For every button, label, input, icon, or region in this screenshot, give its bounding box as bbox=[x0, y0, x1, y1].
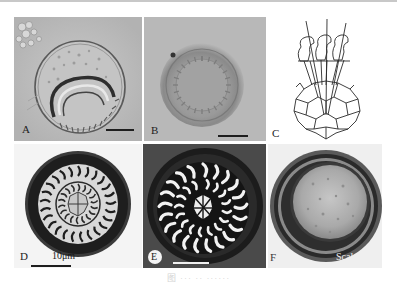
panel-label-a: A bbox=[22, 124, 30, 135]
panel-label-b: B bbox=[151, 125, 158, 136]
panel-label-e: E bbox=[151, 252, 157, 262]
panel-d: D 10μm bbox=[14, 144, 142, 268]
top-rule bbox=[0, 0, 397, 2]
figure-caption: 图 ··· ·· ······ bbox=[0, 271, 397, 284]
scale-bar-b bbox=[218, 135, 248, 137]
scale-bar-a bbox=[106, 129, 134, 131]
panel-label-f: F bbox=[270, 252, 276, 263]
panel-b-micrograph bbox=[144, 17, 266, 141]
scale-text-d: 10μm bbox=[52, 251, 75, 261]
panel-b: B bbox=[144, 17, 266, 141]
panel-c-line-drawing bbox=[268, 17, 397, 141]
panel-e: E bbox=[143, 144, 266, 268]
scale-bar-d bbox=[31, 265, 71, 267]
panel-d-micrograph bbox=[14, 144, 142, 268]
panel-f: F Scale 1 bbox=[268, 144, 382, 268]
scale-bar-e bbox=[173, 262, 209, 264]
panel-c: C bbox=[268, 17, 397, 141]
scale-text-f: Scale 1 bbox=[336, 252, 365, 262]
panel-a: A bbox=[14, 17, 142, 141]
panel-f-micrograph bbox=[268, 144, 382, 268]
panel-a-micrograph bbox=[14, 17, 142, 141]
panel-label-c: C bbox=[272, 128, 279, 139]
panel-e-micrograph bbox=[143, 144, 266, 268]
panel-label-d: D bbox=[20, 251, 28, 262]
